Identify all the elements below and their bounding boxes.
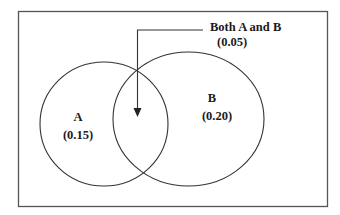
set-b-label: B — [208, 91, 216, 105]
venn-diagram: Both A and B (0.05) A (0.15) B (0.20) — [0, 0, 340, 215]
intersection-label: Both A and B — [210, 20, 281, 34]
intersection-value: (0.05) — [217, 35, 247, 49]
diagram-frame — [19, 12, 328, 207]
set-a-value: (0.15) — [63, 128, 93, 142]
set-b-value: (0.20) — [202, 109, 232, 123]
set-a-label: A — [73, 110, 82, 124]
